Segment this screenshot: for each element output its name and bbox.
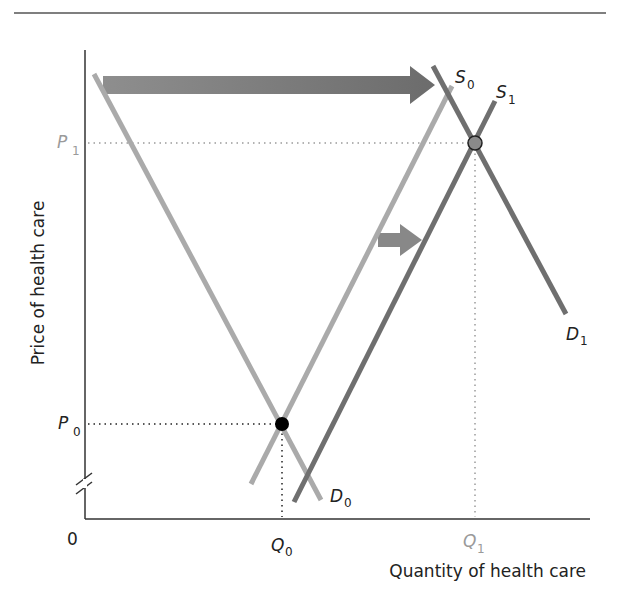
s0-label: S 0: [455, 67, 475, 92]
svg-text:D: D: [330, 486, 343, 506]
chart-canvas: Price of health care Quantity of health …: [0, 0, 618, 609]
svg-text:S: S: [455, 67, 466, 87]
p0-label: P 0: [58, 413, 81, 439]
initial-equilibrium-point: [275, 417, 289, 431]
svg-text:S: S: [496, 82, 507, 102]
guide-lines: [88, 143, 475, 517]
svg-text:Q: Q: [271, 535, 284, 555]
demand-curve-d0: [94, 74, 321, 500]
y-axis-title: Price of health care: [28, 201, 48, 366]
d0-label: D 0: [330, 486, 352, 510]
svg-text:P: P: [57, 132, 68, 152]
svg-text:0: 0: [285, 545, 293, 559]
s1-label: S 1: [496, 82, 516, 107]
d1-label: D 1: [566, 324, 588, 348]
svg-text:1: 1: [508, 93, 516, 107]
supply-shift-arrow-icon: [378, 224, 422, 256]
supply-curve-s1: [294, 101, 495, 502]
origin-label: 0: [67, 529, 78, 549]
svg-text:1: 1: [477, 542, 485, 556]
svg-text:Q: Q: [463, 531, 476, 551]
q0-label: Q 0: [271, 535, 293, 559]
x-axis-title: Quantity of health care: [389, 561, 586, 581]
svg-text:P: P: [58, 413, 69, 433]
svg-text:0: 0: [73, 425, 81, 439]
svg-text:0: 0: [467, 78, 475, 92]
svg-text:0: 0: [344, 496, 352, 510]
demand-shift-arrow-icon: [103, 66, 435, 104]
svg-text:D: D: [566, 324, 579, 344]
q1-label: Q 1: [463, 531, 485, 556]
new-equilibrium-point: [468, 136, 482, 150]
svg-text:1: 1: [580, 334, 588, 348]
svg-text:1: 1: [72, 144, 80, 158]
p1-label: P 1: [57, 132, 80, 158]
